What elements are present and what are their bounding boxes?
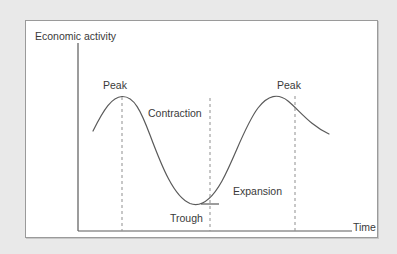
y-axis-label: Economic activity: [35, 31, 116, 42]
trough-label: Trough: [170, 213, 203, 224]
contraction-label: Contraction: [148, 108, 202, 119]
business-cycle-curve: [93, 96, 329, 204]
x-axis-label: Time: [353, 222, 376, 233]
business-cycle-chart: [26, 21, 379, 239]
figure-frame: Economic activity Peak Peak Contraction …: [25, 20, 378, 238]
expansion-label: Expansion: [233, 186, 282, 197]
peak-2-label: Peak: [277, 80, 301, 91]
peak-1-label: Peak: [103, 80, 127, 91]
